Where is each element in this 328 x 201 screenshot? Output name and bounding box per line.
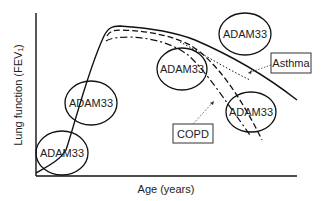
ellipse-plateau-top: ADAM33 <box>219 13 271 55</box>
svg-text:ADAM33: ADAM33 <box>69 97 113 109</box>
svg-text:ADAM33: ADAM33 <box>160 63 204 75</box>
ellipse-decline-start: ADAM33 <box>157 48 207 90</box>
x-axis-label: Age (years) <box>138 183 195 195</box>
ellipse-late-decline: ADAM33 <box>226 92 276 132</box>
ellipse-growth: ADAM33 <box>65 81 117 125</box>
ellipse-early-life: ADAM33 <box>36 131 88 175</box>
lung-function-diagram: ADAM33 ADAM33 ADAM33 ADAM33 ADAM33 Asthm… <box>0 0 328 201</box>
callout-copd: COPD <box>173 101 214 143</box>
svg-text:ADAM33: ADAM33 <box>223 28 267 40</box>
svg-text:COPD: COPD <box>177 128 209 140</box>
svg-text:ADAM33: ADAM33 <box>40 147 84 159</box>
svg-text:Asthma: Asthma <box>272 57 310 69</box>
y-axis-label: Lung function (FEV₁) <box>12 44 24 146</box>
svg-text:ADAM33: ADAM33 <box>229 106 273 118</box>
callout-asthma: Asthma <box>248 53 311 74</box>
